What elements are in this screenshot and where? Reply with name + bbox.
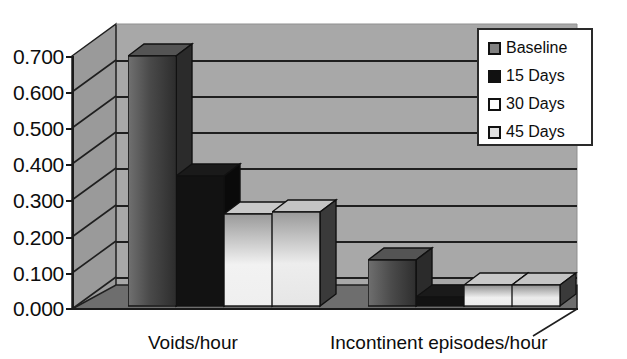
- y-tick-0300: [66, 200, 74, 202]
- y-axis-label-0700: 0.700: [2, 46, 64, 67]
- legend-item-baseline[interactable]: Baseline: [488, 39, 567, 57]
- y-tick-0500: [66, 128, 74, 130]
- y-axis-label-0400: 0.400: [2, 154, 64, 175]
- x-axis-label-incontinent: Incontinent episodes/hour: [330, 333, 548, 352]
- legend-item-45days[interactable]: 45 Days: [488, 123, 565, 141]
- bar-voids-30days: [224, 212, 272, 306]
- legend-item-30days[interactable]: 30 Days: [488, 95, 565, 113]
- y-axis-label-0200: 0.200: [2, 227, 64, 248]
- y-tick-0200: [66, 237, 74, 239]
- legend-swatch-30days: [488, 98, 501, 111]
- legend-swatch-15days: [488, 70, 501, 83]
- bar-incontinent-30days: [464, 283, 512, 306]
- legend: Baseline 15 Days 30 Days 45 Days: [477, 28, 593, 146]
- legend-label-45days: 45 Days: [506, 124, 565, 140]
- bar-incontinent-baseline: [368, 258, 416, 306]
- bar-chart: 0.700 0.600 0.500 0.400 0.300 0.200 0.10…: [0, 0, 627, 359]
- y-axis-label-0000: 0.000: [2, 298, 64, 319]
- y-axis-line: [72, 56, 74, 310]
- x-axis-label-voids: Voids/hour: [148, 333, 238, 352]
- bar-voids-45days: [272, 210, 320, 306]
- y-tick-0100: [66, 273, 74, 275]
- bar-incontinent-45days: [512, 283, 560, 306]
- legend-item-15days[interactable]: 15 Days: [488, 67, 565, 85]
- y-axis-label-0100: 0.100: [2, 263, 64, 284]
- y-tick-0700: [66, 56, 74, 58]
- y-axis-label-0500: 0.500: [2, 118, 64, 139]
- y-tick-0000: [66, 308, 74, 310]
- legend-label-baseline: Baseline: [506, 40, 567, 56]
- legend-label-30days: 30 Days: [506, 96, 565, 112]
- bar-voids-baseline: [128, 54, 176, 306]
- bar-voids-15days: [176, 174, 224, 306]
- y-axis-labels: 0.700 0.600 0.500 0.400 0.300 0.200 0.10…: [0, 0, 64, 359]
- legend-label-15days: 15 Days: [506, 68, 565, 84]
- y-axis-label-0300: 0.300: [2, 190, 64, 211]
- y-axis-label-0600: 0.600: [2, 82, 64, 103]
- y-tick-0400: [66, 164, 74, 166]
- y-tick-0600: [66, 92, 74, 94]
- x-axis-line: [72, 308, 578, 310]
- legend-swatch-baseline: [488, 42, 501, 55]
- bar-incontinent-15days: [416, 295, 464, 306]
- legend-swatch-45days: [488, 126, 501, 139]
